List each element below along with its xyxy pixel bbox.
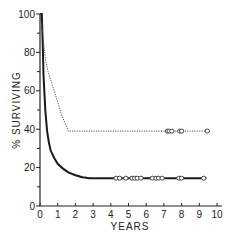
censor-marker [170,129,174,133]
x-tick-label: 1 [55,209,61,220]
x-axis: 012345678910 [37,203,223,220]
censor-marker [139,176,143,180]
x-tick-label: 8 [179,209,185,220]
censor-marker [117,176,121,180]
y-axis-title: % SURVIVING [11,71,22,149]
x-tick-label: 3 [90,209,96,220]
x-tick-label: 7 [161,209,167,220]
y-tick-label: 80 [24,47,36,58]
y-tick-label: 60 [24,85,36,96]
y-tick-label: 0 [29,201,35,212]
survival-chart: 020406080100 012345678910 YEARS % SURVIV… [0,0,238,241]
censor-marker [124,176,128,180]
solid-survival-curve [40,14,206,180]
x-tick-label: 5 [126,209,132,220]
x-tick-label: 4 [108,209,114,220]
y-tick-label: 100 [18,9,35,20]
curve-line [40,14,206,178]
censor-marker [202,176,206,180]
censor-marker [205,129,209,133]
x-tick-label: 6 [143,209,149,220]
series-layer [40,14,209,180]
x-tick-label: 2 [73,209,79,220]
y-tick-label: 20 [24,162,36,173]
x-tick-label: 10 [211,209,223,220]
censor-marker [179,129,183,133]
dotted-survival-curve [40,14,209,133]
x-axis-title: YEARS [111,221,150,232]
curve-line [40,14,206,131]
x-tick-label: 0 [37,209,43,220]
x-tick-label: 9 [197,209,203,220]
censor-marker [179,176,183,180]
censor-marker [160,176,164,180]
y-tick-label: 40 [24,124,36,135]
